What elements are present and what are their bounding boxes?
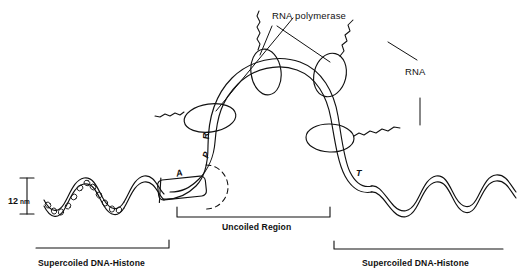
transcription-diagram	[0, 0, 518, 280]
rna-polymerase-ellipse-right	[306, 123, 355, 153]
rna-transcript-top-right	[340, 20, 353, 56]
rna-transcript-right	[354, 127, 400, 136]
rna-polymerase-ellipse-top-right	[309, 50, 351, 100]
supercoiled-dna-left	[44, 176, 164, 217]
site-label-a: A	[175, 167, 184, 178]
scale-unit: nm	[20, 198, 30, 205]
site-label-t: T	[356, 168, 362, 178]
rna-transcript-left	[155, 112, 184, 117]
uncoiled-region-label: Uncoiled Region	[222, 222, 291, 232]
supercoiled-dna-right	[371, 175, 516, 217]
supercoiled-left-label: Supercoiled DNA-Histone	[38, 258, 145, 268]
dashed-polymerase-ghost	[206, 165, 228, 209]
rna-polymerase-ellipse-top-left	[248, 47, 284, 97]
bracket-uncoiled-region	[177, 207, 330, 217]
scale-label: 12nm	[8, 190, 30, 208]
operator-box	[157, 176, 207, 203]
bracket-supercoiled-left	[36, 240, 169, 248]
site-label-r: R	[201, 133, 211, 140]
figure-canvas: RNA polymerase RNA Uncoiled Region Super…	[0, 0, 518, 280]
rna-label: RNA	[405, 66, 426, 77]
rna-polymerase-ellipse-left	[182, 101, 237, 136]
supercoiled-right-label: Supercoiled DNA-Histone	[362, 258, 469, 268]
rna-polymerase-label: RNA polymerase	[272, 10, 346, 21]
leader-rna-polymerase	[216, 18, 330, 111]
leader-rna	[388, 42, 420, 125]
bracket-supercoiled-right	[334, 241, 503, 249]
scale-value: 12	[8, 196, 18, 206]
uncoiled-dna-loop	[163, 59, 372, 200]
rna-transcript-top-left	[257, 11, 260, 50]
